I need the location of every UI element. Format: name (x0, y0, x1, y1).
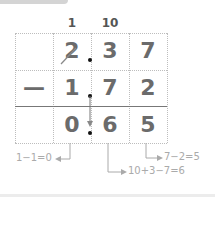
decimal-point (88, 131, 92, 135)
annotation-tenths: 10+3−7=6 (128, 165, 185, 176)
annotation-ones: 1−1=0 (16, 152, 52, 163)
bottom-divider (0, 194, 215, 197)
annotation-hundredths: 7−2=5 (164, 151, 200, 162)
decimal-point (88, 58, 92, 62)
arrow-head-icon (87, 121, 93, 127)
strike-mark (61, 48, 76, 64)
